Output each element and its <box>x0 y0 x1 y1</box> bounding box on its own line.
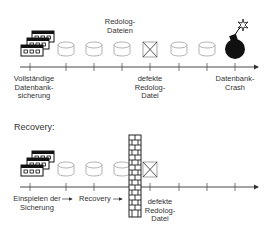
database-cylinder-icon <box>58 42 74 56</box>
label-full-backup: Vollständige Datenbank- sicherung <box>10 75 58 101</box>
brick-wall-icon <box>129 135 141 217</box>
database-cylinder-icon <box>58 162 74 176</box>
label-db-crash: Datenbank- Crash <box>212 75 258 92</box>
database-cylinder-icon <box>114 42 130 56</box>
label-restore-backup: Einspielen der Sicherung <box>12 195 62 212</box>
database-cylinder-icon <box>171 42 187 56</box>
database-cylinder-icon <box>86 162 102 176</box>
redolog-cylinders <box>58 42 215 57</box>
recovery-cylinders <box>58 162 157 177</box>
defective-file-icon <box>143 42 157 57</box>
top-timeline <box>20 63 258 71</box>
backup-tapes-icon <box>21 31 54 56</box>
label-defective-redolog: defekte Redolog- Datei <box>130 75 170 101</box>
recovery-title: Recovery: <box>14 122 55 132</box>
backup-tapes-icon <box>21 151 54 176</box>
database-cylinder-icon <box>86 42 102 56</box>
database-cylinder-icon <box>199 42 215 56</box>
label-redolog-files: Redolog- Dateien <box>98 18 142 35</box>
label-recovery: Recovery <box>79 195 111 204</box>
label-defective-redolog-recovery: defekte Redolog- Datei <box>142 198 178 224</box>
database-cylinder-icon <box>114 162 130 176</box>
defective-file-icon <box>143 162 157 177</box>
bomb-icon <box>225 19 248 59</box>
